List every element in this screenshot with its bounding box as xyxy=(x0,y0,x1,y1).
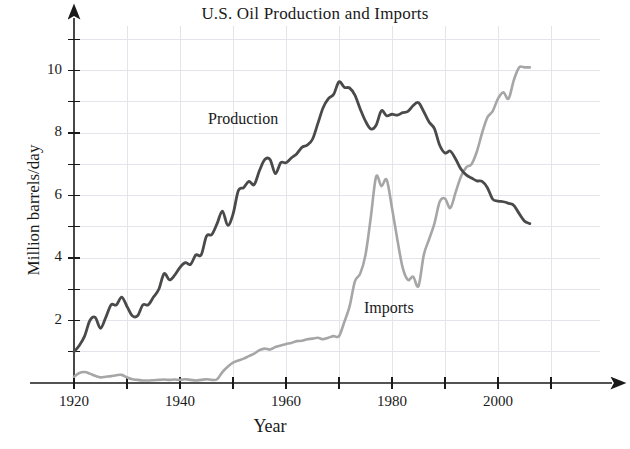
axis-ticks xyxy=(68,39,551,389)
y-tick-label: 6 xyxy=(32,186,62,203)
gridlines xyxy=(74,26,600,383)
y-tick-label: 2 xyxy=(32,311,62,328)
x-tick-label: 1980 xyxy=(362,393,422,410)
x-axis-label: Year xyxy=(160,416,380,437)
series-label-imports: Imports xyxy=(364,299,414,317)
x-tick-label: 1920 xyxy=(44,393,104,410)
y-tick-label: 8 xyxy=(32,123,62,140)
chart-title: U.S. Oil Production and Imports xyxy=(0,4,630,24)
chart-figure: U.S. Oil Production and Imports Million … xyxy=(0,0,630,449)
x-tick-label: 1940 xyxy=(150,393,210,410)
y-tick-label: 4 xyxy=(32,248,62,265)
production-line xyxy=(74,82,530,352)
imports-line xyxy=(74,66,530,380)
x-tick-label: 2000 xyxy=(468,393,528,410)
series-label-production: Production xyxy=(208,110,278,128)
y-tick-label: 10 xyxy=(32,61,62,78)
y-axis-label: Million barrels/day xyxy=(24,110,44,310)
x-tick-label: 1960 xyxy=(256,393,316,410)
chart-plot-area xyxy=(0,0,630,449)
